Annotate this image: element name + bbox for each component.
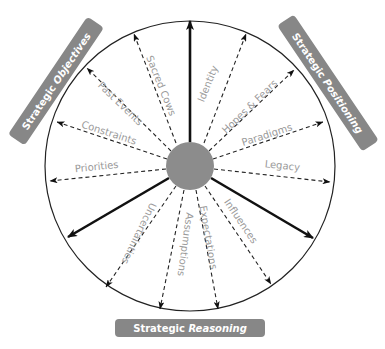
label-legacy: Legacy [264, 158, 300, 173]
arrow-influences [205, 186, 271, 284]
strategy-wheel-diagram: Sacred Cows Identity Past Events Hopes &… [0, 0, 385, 349]
label-past-events: Past Events [96, 79, 145, 127]
pill-reasoning-emphasis: Reasoning [188, 323, 246, 334]
label-assumptions: Assumptions [176, 212, 196, 277]
label-paradigms: Paradigms [240, 121, 293, 148]
pill-reasoning-prefix: Strategic [133, 323, 188, 334]
label-identity: Identity [195, 64, 220, 104]
svg-text:Strategic Reasoning: Strategic Reasoning [133, 323, 247, 334]
arrow-legacy [214, 169, 330, 182]
center-hub [166, 142, 214, 190]
label-constraints: Constraints [80, 119, 138, 147]
pill-objectives-emphasis: Objectives [51, 31, 93, 86]
pill-strategic-reasoning: Strategic Reasoning [115, 319, 265, 337]
arrow-sacred-cows [134, 34, 176, 143]
label-uncertainties: Uncertainties [120, 201, 159, 266]
label-expectations: Expectations [197, 205, 219, 271]
svg-text:Strategic Objectives: Strategic Objectives [20, 31, 93, 132]
pill-positioning-emphasis: Positioning [321, 77, 366, 136]
label-sacred-cows: Sacred Cows [144, 54, 178, 118]
label-priorities: Priorities [74, 159, 119, 175]
